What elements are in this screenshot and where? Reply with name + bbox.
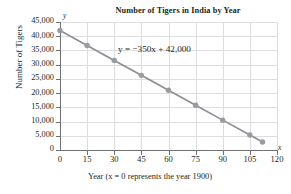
x-tick-label: 60 — [154, 154, 184, 164]
y-tick-mark — [56, 136, 60, 137]
gridline-horizontal — [60, 122, 277, 123]
gridline-vertical — [223, 22, 224, 150]
x-axis-label: Year (x = 0 represents the year 1900) — [30, 172, 270, 181]
y-axis-line — [60, 22, 61, 151]
y-tick-mark — [56, 107, 60, 108]
gridline-vertical — [196, 22, 197, 150]
y-tick-mark — [56, 93, 60, 94]
y-tick-label: 10,000 — [2, 116, 54, 125]
gridline-vertical — [169, 22, 170, 150]
x-tick-label: 45 — [126, 154, 156, 164]
chart-title: Number of Tigers in India by Year — [78, 6, 278, 15]
x-tick-label: 75 — [181, 154, 211, 164]
gridline-horizontal — [60, 93, 277, 94]
gridline-vertical — [277, 22, 278, 150]
gridline-horizontal — [60, 107, 277, 108]
y-tick-mark — [56, 122, 60, 123]
x-tick-label: 120 — [262, 154, 291, 164]
y-tick-mark — [56, 79, 60, 80]
gridline-horizontal — [60, 65, 277, 66]
equation-annotation: y = −350x + 42,000 — [118, 44, 191, 54]
y-tick-label: 45,000 — [2, 16, 54, 25]
y-tick-label: 35,000 — [2, 45, 54, 54]
y-axis-letter: y — [63, 11, 66, 20]
y-tick-mark — [56, 50, 60, 51]
y-tick-label: 20,000 — [2, 88, 54, 97]
y-tick-mark — [56, 36, 60, 37]
y-tick-label: 30,000 — [2, 59, 54, 68]
x-tick-label: 15 — [72, 154, 102, 164]
chart-figure: Number of Tigers in India by Year Number… — [0, 0, 291, 194]
x-tick-label: 30 — [99, 154, 129, 164]
gridline-horizontal — [60, 79, 277, 80]
y-tick-mark — [56, 22, 60, 23]
gridline-vertical — [87, 22, 88, 150]
gridline-horizontal — [60, 136, 277, 137]
y-tick-label: 15,000 — [2, 102, 54, 111]
plot-area — [60, 22, 277, 150]
gridline-vertical — [141, 22, 142, 150]
gridline-vertical — [114, 22, 115, 150]
x-axis-letter: x — [278, 143, 281, 152]
gridline-horizontal — [60, 22, 277, 23]
y-tick-label: 40,000 — [2, 31, 54, 40]
y-tick-label: 25,000 — [2, 73, 54, 82]
x-tick-label: 105 — [235, 154, 265, 164]
gridline-horizontal — [60, 36, 277, 37]
y-tick-mark — [56, 65, 60, 66]
gridline-vertical — [250, 22, 251, 150]
y-tick-mark — [56, 150, 60, 151]
x-tick-label: 0 — [45, 154, 75, 164]
y-tick-label: 0 — [2, 144, 54, 153]
y-tick-label: 5,000 — [2, 130, 54, 139]
x-tick-label: 90 — [208, 154, 238, 164]
